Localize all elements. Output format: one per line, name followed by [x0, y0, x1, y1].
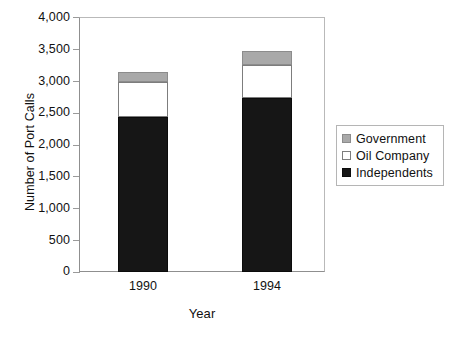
y-tick-label-1500: 1,500 [8, 170, 70, 182]
chart-legend: Government Oil Company Independents [336, 125, 444, 186]
legend-swatch-oil-company-icon [342, 151, 351, 160]
bar-1990-segment-independents[interactable] [118, 117, 168, 272]
x-tick-label-1990: 1990 [103, 279, 183, 293]
bar-1994[interactable] [242, 51, 292, 272]
legend-label-government: Government [356, 132, 426, 146]
y-tick-label-4000: 4,000 [8, 11, 70, 23]
y-tick-label-500-wrap: 500 [0, 234, 70, 246]
legend-label-independents: Independents [356, 166, 433, 180]
y-tick-label-0: 0 [8, 265, 70, 277]
y-tick-label-500: 500 [8, 234, 70, 246]
legend-item-oil-company[interactable]: Oil Company [342, 147, 439, 164]
y-tick-label-1000-wrap: 1,000 [0, 202, 70, 214]
x-axis-title: Year [79, 306, 325, 321]
legend-swatch-independents-icon [342, 168, 351, 177]
bar-1990[interactable] [118, 72, 168, 272]
bar-1994-segment-oil-company[interactable] [242, 65, 292, 98]
bar-1990-segment-oil-company[interactable] [118, 82, 168, 117]
y-tick-label-3000: 3,000 [8, 75, 70, 87]
y-tick-label-0-wrap: 0 [0, 265, 70, 277]
legend-swatch-government-icon [342, 134, 351, 143]
y-tick-label-2500-wrap: 2,500 [0, 106, 70, 118]
y-tick-label-3000-wrap: 3,000 [0, 75, 70, 87]
x-tick-label-1994: 1994 [227, 279, 307, 293]
bar-1994-segment-government[interactable] [242, 51, 292, 65]
legend-item-government[interactable]: Government [342, 130, 439, 147]
y-tick-label-3500: 3,500 [8, 43, 70, 55]
y-tick-label-3500-wrap: 3,500 [0, 43, 70, 55]
y-tick-label-1000: 1,000 [8, 202, 70, 214]
y-tick-label-2000: 2,000 [8, 138, 70, 150]
bar-1990-segment-government[interactable] [118, 72, 168, 82]
y-tick-label-1500-wrap: 1,500 [0, 170, 70, 182]
y-tick-label-2000-wrap: 2,000 [0, 138, 70, 150]
plot-area [79, 17, 325, 272]
y-tick-mark-0 [73, 272, 80, 273]
y-tick-label-2500: 2,500 [8, 106, 70, 118]
legend-label-oil-company: Oil Company [356, 149, 429, 163]
bar-1994-segment-independents[interactable] [242, 98, 292, 272]
legend-item-independents[interactable]: Independents [342, 164, 439, 181]
stacked-bar-chart: Number of Port Calls 4,000 3,500 3,000 2… [0, 0, 452, 338]
y-tick-label-4000-wrap: 4,000 [0, 11, 70, 23]
